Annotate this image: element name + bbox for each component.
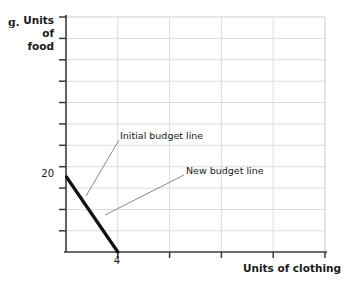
y-axis-ticks	[59, 17, 66, 231]
y-axis-title-line1: Units	[18, 14, 54, 27]
budget-line-figure: g. Units of food Units of clothing 20 4 …	[0, 0, 344, 294]
y-axis-title: Units of food	[18, 14, 54, 53]
x-axis-ticks	[118, 252, 325, 258]
annotation-initial-budget-line: Initial budget line	[120, 130, 203, 141]
x-tick-label-4: 4	[103, 255, 131, 266]
y-tick-label-20: 20	[26, 168, 54, 179]
annotation-new-budget-line: New budget line	[186, 165, 264, 176]
x-axis-title: Units of clothing	[205, 262, 341, 274]
y-axis-title-line2: of food	[18, 27, 54, 53]
